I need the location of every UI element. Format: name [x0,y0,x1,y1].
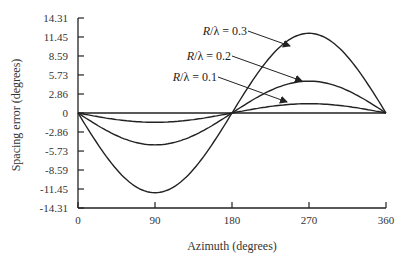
x-tick-label: 0 [75,214,81,226]
y-tick-label: -5.73 [45,145,68,157]
y-tick-label: 14.31 [43,12,68,24]
y-tick-label: 5.73 [49,69,69,81]
series-label: R/λ = 0.2 [186,49,231,63]
leader-arrow [248,31,290,46]
series-label: R/λ = 0.3 [202,24,247,38]
series-labels: R/λ = 0.1R/λ = 0.2R/λ = 0.3 [172,24,302,102]
series-label: R/λ = 0.1 [172,70,217,84]
x-tick-label: 90 [150,214,162,226]
x-tick-label: 180 [224,214,241,226]
y-tick-label: -2.86 [45,126,68,138]
spacing-error-chart: 14.3111.458.595.732.860-2.86-5.73-8.59-1… [0,0,418,265]
y-tick-label: 2.86 [49,88,69,100]
x-tick-label: 270 [301,214,318,226]
y-tick-label: 11.45 [44,31,69,43]
x-axis-title: Azimuth (degrees) [187,239,277,253]
y-tick-label: -11.45 [40,183,69,195]
y-axis-title: Spacing error (degrees) [9,59,23,172]
y-tick-label: 0 [63,107,69,119]
y-tick-label: -14.31 [40,202,68,214]
x-tick-label: 360 [378,214,395,226]
y-tick-label: -8.59 [45,164,68,176]
axes: 14.3111.458.595.732.860-2.86-5.73-8.59-1… [40,12,395,226]
y-tick-label: 8.59 [49,50,69,62]
